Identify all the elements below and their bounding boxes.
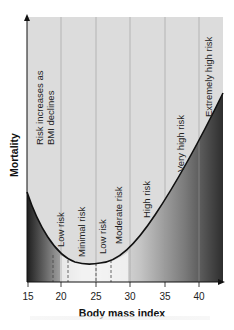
risk-note-line2: BMI declines [45, 90, 56, 145]
x-tick-label: 15 [22, 291, 34, 302]
zone-label-extremely-high-risk: Extremely high risk [203, 37, 214, 117]
x-tick-label: 40 [193, 291, 205, 302]
risk-note-line1: Risk increases as [34, 70, 45, 145]
zone-label-high-risk: High risk [141, 181, 152, 218]
x-tick-label: 35 [159, 291, 171, 302]
x-tick-label: 20 [55, 291, 67, 302]
bleed-through-text [30, 316, 210, 320]
zone-label-minimal-risk: Minimal risk [76, 207, 87, 257]
x-ticks [28, 282, 199, 287]
x-tick-label: 30 [124, 291, 136, 302]
y-axis-title: Mortality [8, 133, 20, 177]
zone-label-low-risk: Low risk [55, 212, 66, 247]
zone-label-moderate-risk: Moderate risk [113, 186, 124, 244]
bmi-mortality-chart: 15 20 25 30 35 40 Body mass index Mortal… [0, 0, 234, 330]
zone-label-low-risk-2: Low risk [97, 219, 108, 254]
x-tick-label: 25 [90, 291, 102, 302]
zone-label-very-high-risk: Very high risk [175, 115, 186, 172]
